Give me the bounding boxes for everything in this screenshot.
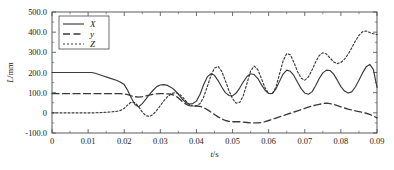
- x-tick-label: 0: [50, 137, 54, 146]
- line-chart: 00.010.020.030.040.050.060.070.080.09500…: [0, 0, 394, 170]
- x-tick-label: 0.04: [189, 137, 204, 146]
- x-tick-label: 0.08: [334, 137, 349, 146]
- x-tick-label: 0.09: [370, 137, 385, 146]
- x-tick-label: 0.05: [225, 137, 240, 146]
- y-axis-title: L/mm: [5, 62, 15, 84]
- y-tick-label: 200.0: [28, 69, 47, 78]
- x-tick-label: 0.02: [117, 137, 132, 146]
- y-tick-label: 100.0: [28, 89, 47, 98]
- x-tick-label: 0.03: [153, 137, 168, 146]
- chart-figure: 00.010.020.030.040.050.060.070.080.09500…: [0, 0, 394, 170]
- y-tick-label: -100.0: [25, 129, 47, 138]
- x-axis-title: t/s: [210, 149, 219, 159]
- y-tick-label: 500.0: [28, 8, 47, 17]
- x-tick-label: 0.07: [297, 137, 312, 146]
- y-tick-label: 300.0: [28, 48, 47, 57]
- legend-label-x: X: [89, 19, 96, 29]
- x-tick-label: 0.01: [81, 137, 96, 146]
- y-tick-label: 400.0: [28, 28, 47, 37]
- series-line-x: [52, 64, 377, 106]
- x-tick-label: 0.06: [261, 137, 276, 146]
- legend-label-y: y: [89, 29, 94, 39]
- y-tick-label: 0: [43, 109, 47, 118]
- series-line-y: [52, 94, 377, 123]
